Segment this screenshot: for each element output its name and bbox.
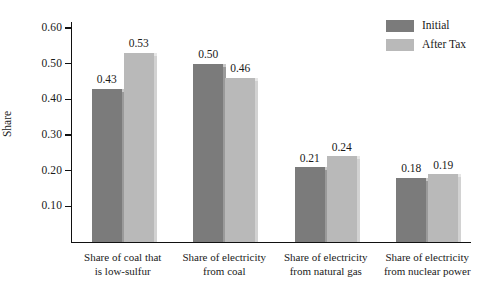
legend-item[interactable]: Initial — [386, 18, 466, 34]
bar[interactable]: 0.24 — [327, 156, 357, 242]
bar[interactable]: 0.43 — [92, 89, 122, 242]
bar-body — [295, 167, 325, 242]
bar-value-label: 0.43 — [97, 74, 117, 86]
bar-body — [428, 174, 458, 242]
y-axis-tick-label: 0.60 — [22, 22, 62, 34]
bar-top-bevel — [223, 64, 226, 67]
y-axis-tick-label: 0.20 — [22, 165, 62, 177]
legend-swatch-icon — [386, 20, 414, 32]
bar-value-label: 0.19 — [433, 160, 453, 172]
x-axis-baseline — [71, 242, 471, 243]
y-axis-tick — [65, 170, 71, 171]
bar-value-label: 0.21 — [300, 153, 320, 165]
bar-body — [225, 78, 255, 242]
y-axis-tick — [65, 134, 71, 135]
bar[interactable]: 0.46 — [225, 78, 255, 242]
bar-value-label: 0.18 — [401, 163, 421, 175]
bar-value-label: 0.50 — [198, 49, 218, 61]
bar-top-bevel — [458, 174, 461, 177]
bar-body — [396, 178, 426, 242]
bar-top-bevel — [255, 78, 258, 81]
y-axis-title: Share — [1, 111, 13, 137]
legend-swatch-icon — [386, 39, 414, 51]
y-axis-tick — [65, 99, 71, 100]
y-axis-tick — [65, 63, 71, 64]
bar-shadow-edge — [357, 159, 360, 242]
legend-item[interactable]: After Tax — [386, 37, 466, 53]
bar-shadow-edge — [458, 177, 461, 242]
legend: InitialAfter Tax — [386, 18, 466, 56]
bar[interactable]: 0.21 — [295, 167, 325, 242]
y-axis-tick — [65, 206, 71, 207]
y-axis-tick-label: 0.30 — [22, 129, 62, 141]
bar-body — [92, 89, 122, 242]
x-axis-category-label: Share of electricity from coal — [174, 250, 276, 278]
x-axis-category-label: Share of electricity from nuclear power — [377, 250, 479, 278]
bar-value-label: 0.24 — [332, 142, 352, 154]
bar[interactable]: 0.50 — [193, 64, 223, 242]
y-axis-tick-label: 0.50 — [22, 58, 62, 70]
bar-body — [327, 156, 357, 242]
legend-label: After Tax — [422, 39, 466, 51]
bar-top-bevel — [357, 156, 360, 159]
bar-chart: Share 0.600.500.400.300.200.10 0.430.530… — [0, 0, 488, 290]
y-axis-tick-label: 0.10 — [22, 200, 62, 212]
bar[interactable]: 0.19 — [428, 174, 458, 242]
bar[interactable]: 0.53 — [124, 53, 154, 242]
bar-shadow-edge — [255, 81, 258, 242]
y-axis-tick — [65, 27, 71, 28]
bar-body — [124, 53, 154, 242]
bar-value-label: 0.46 — [230, 63, 250, 75]
x-axis-category-label: Share of coal that is low-sulfur — [72, 250, 174, 278]
x-axis-category-label: Share of electricity from natural gas — [275, 250, 377, 278]
bar-shadow-edge — [154, 56, 157, 242]
bar[interactable]: 0.18 — [396, 178, 426, 242]
bar-body — [193, 64, 223, 242]
legend-label: Initial — [422, 20, 449, 32]
bar-top-bevel — [154, 53, 157, 56]
bar-value-label: 0.53 — [129, 38, 149, 50]
y-axis-tick-label: 0.40 — [22, 93, 62, 105]
